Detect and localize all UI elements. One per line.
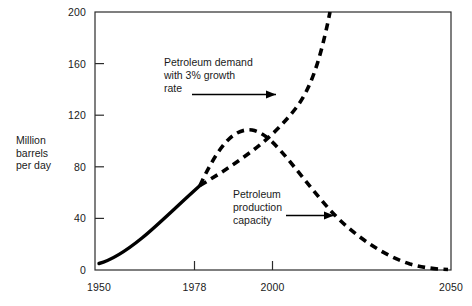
annotation-demand-line-2: with 3% growth [164,69,253,82]
y-axis-title-line-3: per day [16,159,51,172]
y-tick-label-40: 40 [38,212,86,224]
x-tick-label-2000: 2000 [246,281,300,293]
annotation-production-line-2: production [233,201,282,214]
chart-figure: 200 160 120 80 40 0 1950 1978 2000 2050 … [0,0,472,306]
series-historical-production [99,186,200,264]
chart-canvas [0,0,472,306]
annotation-production-line-3: capacity [233,214,282,227]
annotation-petroleum-demand: Petroleum demand with 3% growth rate [164,56,253,95]
y-tick-label-200: 200 [38,6,86,18]
series-petroleum-demand [200,12,330,186]
x-tick-label-2050: 2050 [424,281,472,293]
x-tick-label-1978: 1978 [168,281,222,293]
y-tick-label-120: 120 [38,109,86,121]
y-axis-title: Million barrels per day [16,134,51,172]
y-axis-title-line-1: Million [16,134,51,147]
y-axis-title-line-2: barrels [16,147,51,160]
annotation-demand-line-1: Petroleum demand [164,56,253,69]
x-axis-ticks [195,261,273,270]
production-annotation-arrow [286,212,334,220]
y-axis-ticks [95,64,104,219]
annotation-production-capacity: Petroleum production capacity [233,188,282,227]
annotation-demand-line-3: rate [164,82,253,95]
annotation-production-line-1: Petroleum [233,188,282,201]
y-tick-label-0: 0 [38,264,86,276]
y-tick-label-160: 160 [38,58,86,70]
x-tick-label-1950: 1950 [72,281,126,293]
